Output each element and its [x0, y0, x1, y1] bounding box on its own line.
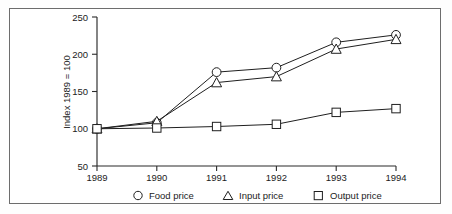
data-point-marker	[332, 108, 340, 116]
series-output-price	[93, 104, 400, 133]
x-tick-label-1993: 1993	[326, 172, 347, 183]
legend-triangle-marker-icon	[223, 191, 233, 199]
figure-container: 250 200 150 100 50 Index 1989 = 100 1989…	[0, 0, 452, 214]
y-axis: 250 200 150 100 50 Index 1989 = 100	[61, 12, 97, 172]
plot-series-group	[92, 30, 401, 133]
legend-square-marker-icon	[314, 192, 322, 200]
x-tick-label-1990: 1990	[146, 172, 167, 183]
y-tick-label-50: 50	[77, 161, 88, 172]
series-line	[97, 109, 396, 129]
data-point-marker	[272, 120, 280, 128]
y-tick-label-200: 200	[72, 49, 88, 60]
line-chart: 250 200 150 100 50 Index 1989 = 100 1989…	[0, 0, 452, 214]
data-point-marker	[93, 125, 101, 133]
y-axis-title: Index 1989 = 100	[61, 55, 72, 129]
y-tick-label-250: 250	[72, 12, 88, 23]
x-tick-label-1991: 1991	[206, 172, 227, 183]
data-point-marker	[271, 72, 281, 81]
x-tick-label-1994: 1994	[385, 172, 406, 183]
data-point-marker	[392, 104, 400, 112]
x-tick-label-1989: 1989	[86, 172, 107, 183]
legend: Food price Input price Output price	[134, 190, 382, 201]
y-tick-label-100: 100	[72, 123, 88, 134]
x-axis: 1989 1990 1991 1992 1993 1994	[86, 166, 406, 183]
data-point-marker	[212, 68, 221, 77]
legend-label-input-price: Input price	[239, 190, 283, 201]
series-line	[97, 39, 396, 128]
legend-circle-marker-icon	[134, 191, 142, 199]
series-input-price	[92, 34, 401, 133]
legend-label-output-price: Output price	[330, 190, 382, 201]
data-point-marker	[212, 122, 220, 130]
y-tick-label-150: 150	[72, 86, 88, 97]
x-tick-label-1992: 1992	[266, 172, 287, 183]
data-point-marker	[153, 124, 161, 132]
series-line	[97, 35, 396, 129]
legend-label-food-price: Food price	[149, 190, 194, 201]
